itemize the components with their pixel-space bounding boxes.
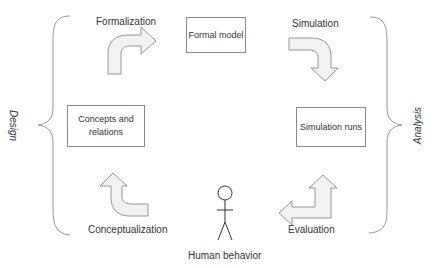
design-brace (38, 16, 70, 235)
concepts-label: Concepts and relations (78, 113, 134, 139)
formalization-arrow-icon (108, 27, 156, 74)
human-behavior-label: Human behavior (188, 250, 261, 261)
analysis-brace (369, 17, 402, 233)
simulation-label: Simulation (292, 18, 339, 29)
stick-figure-icon (217, 186, 233, 240)
concepts-box: Concepts and relations (67, 105, 145, 147)
simulation-runs-box: Simulation runs (296, 107, 366, 147)
analysis-label: Analysis (412, 107, 423, 144)
formal-model-box: Formal model (186, 17, 246, 53)
simulation-runs-label: Simulation runs (300, 121, 362, 134)
conceptualization-label: Conceptualization (88, 224, 168, 235)
evaluation-arrow-icon (279, 175, 337, 225)
simulation-arrow-icon (289, 38, 338, 81)
formal-model-label: Formal model (188, 29, 243, 42)
formalization-label: Formalization (96, 16, 156, 27)
design-label: Design (8, 110, 19, 141)
conceptualization-arrow-icon (100, 173, 148, 216)
evaluation-label: Evaluation (288, 224, 335, 235)
